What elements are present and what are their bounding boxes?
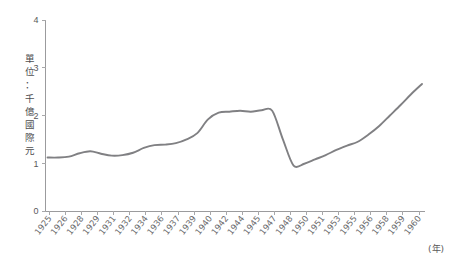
x-axis-title-label: (年) <box>428 243 444 254</box>
x-axis-title: (年) <box>428 243 444 254</box>
y-axis-title-char: 元 <box>25 145 35 156</box>
y-axis-title-char: 單 <box>25 53 35 64</box>
chart-background <box>0 0 459 261</box>
y-axis-title-char: 際 <box>25 132 35 143</box>
y-axis-title-char: 千 <box>25 93 35 104</box>
y-axis-title-char: ： <box>25 79 35 90</box>
y-axis-title-char: 位 <box>25 66 35 77</box>
y-axis-title-char: 國 <box>25 119 35 130</box>
y-tick-label: 1 <box>33 159 38 169</box>
y-tick-label: 4 <box>33 15 38 25</box>
y-tick-label: 0 <box>33 206 38 216</box>
line-chart: 43210 1925192619281929193119321934193619… <box>0 0 459 261</box>
chart-canvas: 43210 1925192619281929193119321934193619… <box>0 0 459 261</box>
y-axis-title-char: 億 <box>25 106 35 117</box>
